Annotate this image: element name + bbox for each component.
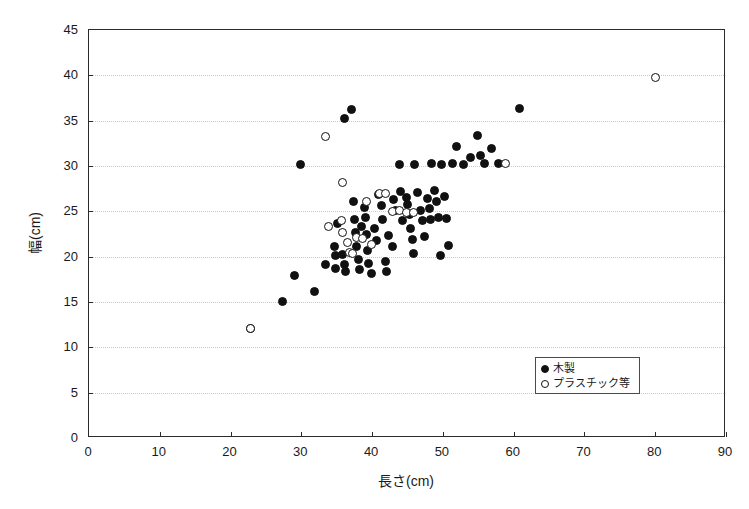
x-axis-tick-label: 40 (364, 444, 378, 459)
x-axis-tick (372, 432, 373, 437)
data-point-wood (310, 287, 319, 296)
data-point-plastic (337, 216, 346, 225)
x-axis-tick (655, 432, 656, 437)
data-point-wood (349, 197, 358, 206)
data-point-wood (442, 214, 451, 223)
data-point-wood (278, 297, 287, 306)
y-axis-tick-label: 10 (64, 339, 78, 354)
x-axis-tick-label: 90 (718, 444, 732, 459)
y-axis-tick (88, 211, 93, 212)
legend-item-plastic: プラスチック等 (541, 376, 634, 391)
data-point-wood (425, 204, 434, 213)
data-point-wood (480, 159, 489, 168)
y-axis-tick-label: 30 (64, 158, 78, 173)
x-axis-tick (584, 432, 585, 437)
gridline-horizontal (89, 347, 724, 348)
x-axis-tick-label: 60 (505, 444, 519, 459)
data-point-plastic (501, 159, 510, 168)
data-point-plastic (381, 189, 390, 198)
data-point-wood (466, 153, 475, 162)
x-axis-tick-label: 0 (84, 444, 91, 459)
data-point-wood (437, 160, 446, 169)
gridline-horizontal (89, 166, 724, 167)
x-axis-tick-label: 80 (647, 444, 661, 459)
x-axis-tick-label: 10 (152, 444, 166, 459)
data-point-wood (377, 201, 386, 210)
y-axis-tick (88, 75, 93, 76)
x-axis-tick-label: 20 (222, 444, 236, 459)
data-point-wood (361, 213, 370, 222)
data-point-plastic (343, 238, 352, 247)
data-point-plastic (651, 73, 660, 82)
y-axis-tick-label: 35 (64, 112, 78, 127)
y-axis-tick-label: 20 (64, 248, 78, 263)
data-point-plastic (358, 234, 367, 243)
data-point-wood (452, 142, 461, 151)
y-axis-tick-label: 0 (71, 430, 78, 445)
data-point-wood (459, 160, 468, 169)
gridline-horizontal (89, 121, 724, 122)
data-point-wood (448, 159, 457, 168)
legend-item-wood: 木製 (541, 361, 634, 376)
y-axis-tick-label: 5 (71, 384, 78, 399)
data-point-wood (347, 105, 356, 114)
y-axis-tick (88, 347, 93, 348)
data-point-wood (381, 257, 390, 266)
data-point-plastic (338, 228, 347, 237)
x-axis-tick-label: 50 (435, 444, 449, 459)
data-point-plastic (338, 178, 347, 187)
y-axis-tick (88, 121, 93, 122)
x-axis-tick (726, 432, 727, 437)
x-axis-title: 長さ(cm) (378, 470, 434, 490)
gridline-horizontal (89, 302, 724, 303)
data-point-plastic (367, 240, 376, 249)
gridline-horizontal (89, 257, 724, 258)
data-point-wood (321, 260, 330, 269)
y-axis-tick-label: 40 (64, 67, 78, 82)
x-axis-tick-label: 30 (293, 444, 307, 459)
scatter-chart-figure: 0102030405060708090051015202530354045 木製… (0, 0, 749, 509)
y-axis-title: 幅(cm) (24, 212, 44, 254)
data-point-wood (388, 242, 397, 251)
data-point-wood (382, 267, 391, 276)
filled-circle-icon (541, 365, 549, 373)
open-circle-icon (541, 380, 549, 388)
x-axis-tick (231, 432, 232, 437)
data-point-plastic (409, 208, 418, 217)
y-axis-tick-label: 15 (64, 294, 78, 309)
data-point-plastic (246, 324, 255, 333)
y-axis-tick (88, 393, 93, 394)
data-point-wood (395, 160, 404, 169)
data-point-wood (378, 215, 387, 224)
data-point-wood (355, 265, 364, 274)
x-axis-tick-label: 70 (576, 444, 590, 459)
data-point-wood (408, 235, 417, 244)
data-point-plastic (321, 132, 330, 141)
legend-label-plastic: プラスチック等 (553, 378, 630, 390)
y-axis-tick-label: 45 (64, 22, 78, 37)
y-axis-tick (88, 166, 93, 167)
y-axis-tick (88, 257, 93, 258)
data-point-wood (413, 188, 422, 197)
data-point-wood (420, 232, 429, 241)
x-axis-tick (301, 432, 302, 437)
data-point-wood (440, 192, 449, 201)
data-point-wood (330, 242, 339, 251)
chart-legend: 木製 プラスチック等 (535, 357, 640, 394)
data-point-wood (296, 160, 305, 169)
x-axis-tick (443, 432, 444, 437)
gridline-horizontal (89, 75, 724, 76)
y-axis-tick-label: 25 (64, 203, 78, 218)
data-point-wood (367, 269, 376, 278)
x-axis-tick (514, 432, 515, 437)
legend-label-wood: 木製 (553, 363, 575, 375)
y-axis-tick (88, 302, 93, 303)
x-axis-tick (160, 432, 161, 437)
